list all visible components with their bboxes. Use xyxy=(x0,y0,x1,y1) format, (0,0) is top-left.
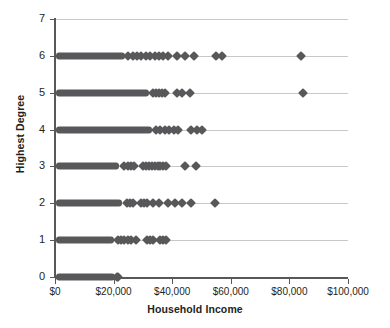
y-tick xyxy=(50,166,55,167)
data-point xyxy=(217,51,227,61)
data-point xyxy=(191,161,201,171)
x-tick xyxy=(55,279,56,284)
y-tick xyxy=(50,19,55,20)
x-tick xyxy=(172,279,173,284)
data-point-cluster xyxy=(56,237,113,244)
data-point xyxy=(296,51,306,61)
x-axis-title: Household Income xyxy=(0,303,390,315)
y-tick-label: 0 xyxy=(27,271,45,282)
x-tick xyxy=(114,279,115,284)
y-tick-label: 5 xyxy=(27,87,45,98)
data-point xyxy=(210,198,220,208)
y-tick-label: 3 xyxy=(27,160,45,171)
x-tick xyxy=(348,279,349,284)
y-tick-label: 4 xyxy=(27,124,45,135)
data-point-cluster xyxy=(56,126,151,133)
data-point xyxy=(186,198,196,208)
y-tick xyxy=(50,203,55,204)
y-tick xyxy=(50,93,55,94)
data-point-cluster xyxy=(56,163,119,170)
x-axis-line xyxy=(55,277,348,279)
y-tick xyxy=(50,240,55,241)
gridline xyxy=(55,19,348,20)
data-point-cluster xyxy=(56,52,125,59)
data-point-cluster xyxy=(56,200,122,207)
x-tick-label: $100,000 xyxy=(308,286,388,297)
y-tick xyxy=(50,56,55,57)
y-tick-label: 1 xyxy=(27,234,45,245)
y-axis-line xyxy=(54,18,56,278)
y-tick-label: 7 xyxy=(27,13,45,24)
data-point xyxy=(185,88,195,98)
scatter-chart: Highest Degree Household Income 01234567… xyxy=(0,0,390,328)
data-point xyxy=(189,51,199,61)
y-tick xyxy=(50,277,55,278)
data-point-cluster xyxy=(56,89,148,96)
y-tick-label: 6 xyxy=(27,50,45,61)
x-tick xyxy=(289,279,290,284)
data-point xyxy=(298,88,308,98)
plot-area xyxy=(55,19,348,277)
data-point xyxy=(180,161,190,171)
y-tick-label: 2 xyxy=(27,197,45,208)
y-tick xyxy=(50,130,55,131)
y-axis-title: Highest Degree xyxy=(14,69,26,199)
x-tick xyxy=(231,279,232,284)
